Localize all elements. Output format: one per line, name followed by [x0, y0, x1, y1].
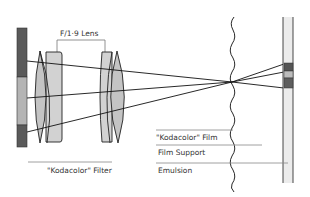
film-label: "Kodacolor" Film [156, 134, 217, 142]
lens-bracket [57, 40, 105, 52]
emulsion-label: Emulsion [158, 167, 192, 175]
light-rays [27, 61, 284, 132]
wavy-break-line [230, 17, 235, 192]
kodacolor-filter-bar [17, 28, 27, 147]
rear-lens-group [100, 51, 124, 143]
film-support-label: Film Support [158, 149, 205, 157]
filter-label: "Kodacolor" Filter [47, 167, 112, 175]
film-strip [283, 17, 293, 183]
lens-label: F/1·9 Lens [60, 30, 98, 38]
